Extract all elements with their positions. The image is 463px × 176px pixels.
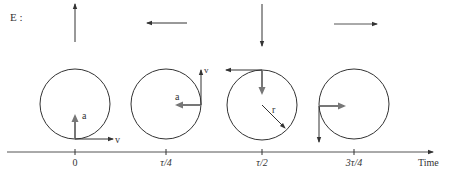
velocity-label: v	[204, 65, 209, 75]
time-axis: 0 τ/4 τ/2 3τ/4 Time	[7, 149, 439, 168]
accel-label: a	[175, 91, 180, 102]
tick-label-quarter: τ/4	[160, 157, 171, 168]
circle-t-quarter: a v	[131, 65, 209, 139]
tick-label-0: 0	[73, 157, 78, 168]
velocity-label: v	[115, 134, 120, 145]
accel-label: a	[82, 110, 87, 121]
circular-motion-diagram: E : a v a v r	[0, 0, 463, 176]
axis-label-time: Time	[418, 157, 439, 168]
tick-label-three-quarter: 3τ/4	[345, 157, 362, 168]
tick-label-half: τ/2	[256, 157, 267, 168]
circle-t-three-quarter	[319, 69, 389, 142]
radius-label: r	[272, 104, 276, 115]
figure-label: E :	[10, 11, 23, 23]
circle-t0: a v	[40, 69, 120, 145]
circle-t-half: r	[226, 70, 297, 140]
